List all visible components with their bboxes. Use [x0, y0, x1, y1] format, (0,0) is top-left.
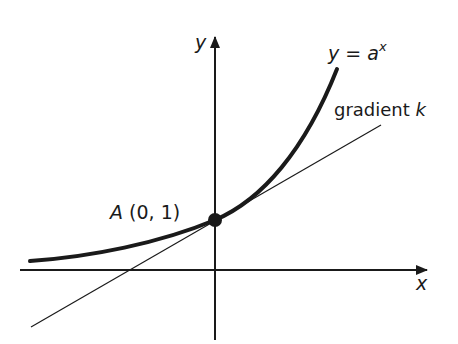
curve-label-exponent: x: [379, 39, 387, 54]
tangent-label-symbol: k: [416, 99, 426, 120]
point-a-label: A (0, 1): [110, 203, 180, 222]
curve-label-base: a: [367, 42, 379, 64]
tangent-label-word: gradient: [334, 99, 410, 120]
tangent-label: gradient k: [334, 101, 426, 119]
curve-label-equals: =: [345, 42, 361, 64]
x-axis-label: x: [416, 274, 427, 293]
y-axis-label: y: [195, 33, 206, 52]
tangent-line: [31, 125, 381, 327]
curve-label: y = ax: [328, 42, 387, 63]
point-a-marker: [208, 213, 222, 227]
curve-label-lhs: y: [328, 42, 339, 64]
point-a-name: A: [110, 201, 123, 223]
exponential-curve: [30, 69, 337, 261]
point-a-coords: (0, 1): [129, 201, 180, 223]
exponential-diagram: [0, 0, 458, 344]
